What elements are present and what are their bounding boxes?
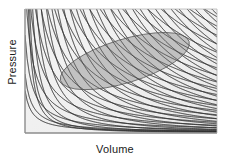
curve bbox=[159, 0, 217, 7]
plot-canvas bbox=[0, 0, 230, 160]
x-axis-label: Volume bbox=[0, 143, 230, 155]
curve bbox=[159, 0, 217, 7]
y-axis-label: Pressure bbox=[6, 32, 18, 92]
curve bbox=[179, 0, 217, 6]
pv-diagram-figure: Pressure Volume bbox=[0, 0, 230, 160]
curve bbox=[179, 0, 217, 6]
